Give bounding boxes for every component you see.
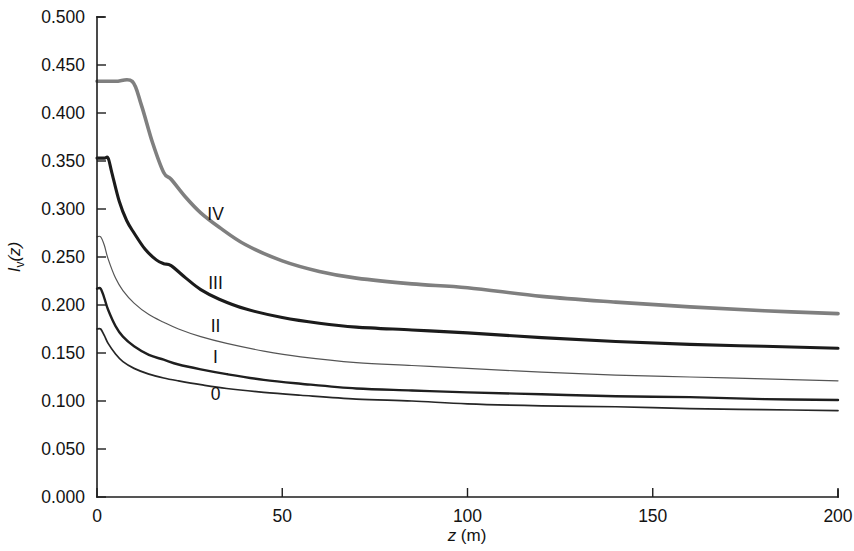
- x-tick-label: 50: [273, 506, 293, 526]
- y-tick-label: 0.450: [41, 55, 85, 75]
- x-tick-label: 100: [453, 506, 482, 526]
- x-tick-label: 200: [823, 506, 852, 526]
- y-tick-label: 0.500: [41, 7, 85, 27]
- y-tick-label: 0.050: [41, 439, 85, 459]
- curve-label-III: III: [208, 273, 223, 293]
- y-tick-label: 0.300: [41, 199, 85, 219]
- figure-container: 0.0000.0500.1000.1500.2000.2500.3000.350…: [0, 0, 854, 551]
- axes-group: [97, 17, 838, 497]
- svg-text:z (m): z (m): [447, 526, 487, 545]
- x-tick-label: 0: [92, 506, 102, 526]
- curve-label-II: II: [211, 316, 221, 336]
- line-chart: 0.0000.0500.1000.1500.2000.2500.3000.350…: [0, 0, 854, 551]
- y-tick-label: 0.150: [41, 343, 85, 363]
- curve-label-I: I: [213, 347, 218, 367]
- y-tick-label: 0.200: [41, 295, 85, 315]
- y-tick-label: 0.250: [41, 247, 85, 267]
- curve-label-IV: IV: [207, 204, 224, 224]
- y-tick-label: 0.100: [41, 391, 85, 411]
- svg-text:Iv(z): Iv(z): [5, 242, 27, 273]
- x-tick-label: 150: [638, 506, 667, 526]
- series-group: [97, 80, 838, 411]
- y-tick-label: 0.000: [41, 487, 85, 507]
- y-tick-label: 0.350: [41, 151, 85, 171]
- x-tick-group: 050100150200: [92, 488, 853, 526]
- curve-label-0: 0: [211, 384, 221, 404]
- x-axis-title: z (m): [447, 526, 487, 545]
- y-tick-label: 0.400: [41, 103, 85, 123]
- series-line-III: [97, 157, 838, 348]
- y-axis-title: Iv(z): [5, 242, 27, 273]
